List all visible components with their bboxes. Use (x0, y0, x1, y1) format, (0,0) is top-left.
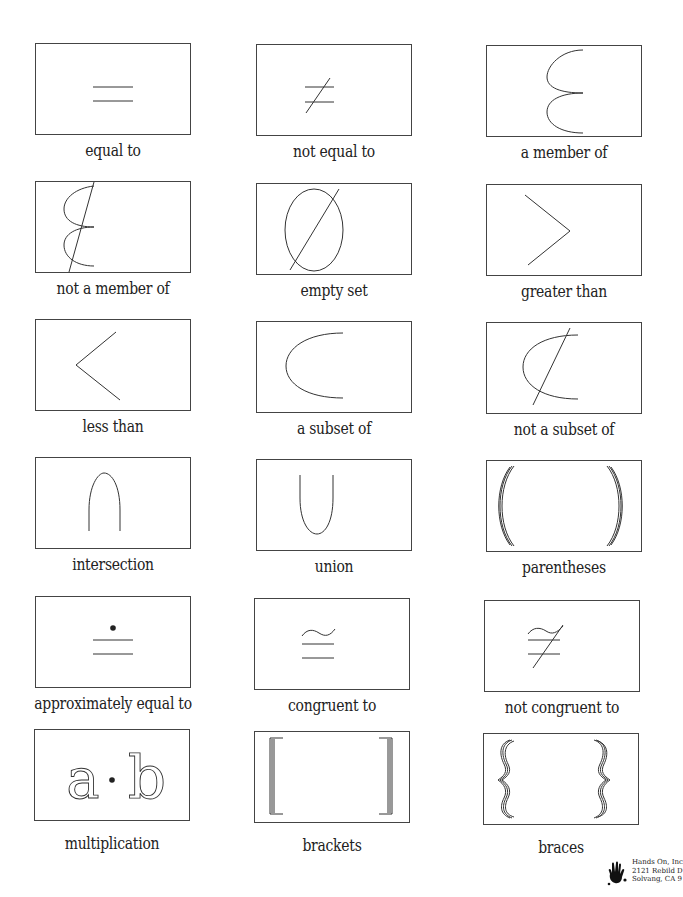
symbol-box (35, 319, 191, 411)
publisher-address: Hands On, Inc 2121 Rebild D Solvang, CA … (632, 858, 683, 884)
less-than-icon (36, 320, 190, 410)
not-equal-icon (257, 45, 411, 135)
braces-icon (484, 734, 638, 824)
card-label: not congruent to (473, 697, 650, 717)
symbol-box: a b (34, 729, 190, 821)
card-label: intersection (24, 554, 201, 574)
symbol-box (254, 598, 410, 690)
not-congruent-icon (485, 601, 639, 691)
symbol-box (256, 321, 412, 413)
member-of-icon (487, 46, 641, 136)
symbol-box (35, 43, 191, 135)
parentheses-icon (487, 461, 641, 551)
card-label: braces (472, 837, 649, 857)
handprint-icon (606, 860, 628, 886)
glyph-a: a (66, 746, 99, 811)
symbol-box (35, 181, 191, 273)
card-label: congruent to (243, 695, 420, 715)
card-label: not equal to (245, 141, 422, 161)
card-label: less than (24, 416, 201, 436)
publisher-street: 2121 Rebild D (632, 867, 683, 876)
publisher-name: Hands On, Inc (632, 858, 683, 867)
card-label: brackets (243, 835, 420, 855)
symbol-box (35, 457, 191, 549)
symbol-box (486, 460, 642, 552)
card-label: union (245, 556, 422, 576)
symbol-box (35, 596, 191, 688)
card-label: approximately equal to (24, 693, 201, 713)
card-label: greater than (475, 281, 652, 301)
symbol-box (256, 183, 412, 275)
brackets-icon (255, 732, 409, 822)
congruent-icon (255, 599, 409, 689)
approx-equal-icon (36, 597, 190, 687)
symbol-box (484, 600, 640, 692)
empty-set-icon (257, 184, 411, 274)
multiplication-icon: a b (35, 730, 189, 820)
symbol-box (486, 184, 642, 276)
publisher-logo: Hands On, Inc 2121 Rebild D Solvang, CA … (606, 858, 673, 888)
symbol-box (256, 459, 412, 551)
card-label: parentheses (475, 557, 652, 577)
symbol-box (486, 322, 642, 414)
card-label: multiplication (23, 833, 200, 853)
card-label: a member of (475, 142, 652, 162)
symbol-box (483, 733, 639, 825)
card-label: not a subset of (475, 419, 652, 439)
symbol-box (256, 44, 412, 136)
card-label: a subset of (245, 418, 422, 438)
card-label: equal to (24, 140, 201, 160)
greater-than-icon (487, 185, 641, 275)
publisher-city: Solvang, CA 9 (632, 875, 683, 884)
not-subset-of-icon (487, 323, 641, 413)
glyph-b: b (128, 742, 166, 812)
card-label: empty set (245, 280, 422, 300)
not-member-of-icon (36, 182, 190, 272)
intersection-icon (36, 458, 190, 548)
equal-icon (36, 44, 190, 134)
subset-of-icon (257, 322, 411, 412)
union-icon (257, 460, 411, 550)
symbol-box (486, 45, 642, 137)
card-label: not a member of (24, 278, 201, 298)
symbol-box (254, 731, 410, 823)
